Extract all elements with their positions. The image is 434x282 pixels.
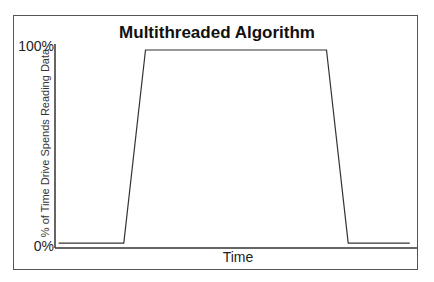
- plot-area: [0, 0, 434, 282]
- series-line: [59, 50, 410, 243]
